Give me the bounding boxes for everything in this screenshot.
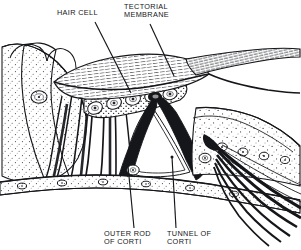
label-outer-rod-of-corti: OUTER ROD OF CORTI xyxy=(104,230,151,247)
label-tectorial-membrane: TECTORIAL MEMBRANE xyxy=(124,3,169,20)
basal-cell-nucleus xyxy=(199,153,211,163)
leader-line-dots xyxy=(171,156,174,159)
organ-of-corti-figure xyxy=(0,0,301,250)
label-tunnel-of-corti: TUNNEL OF CORTI xyxy=(167,230,211,247)
label-hair-cell: HAIR CELL xyxy=(57,9,98,17)
